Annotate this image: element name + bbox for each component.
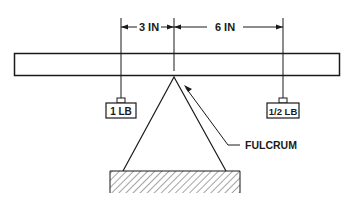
dimension-left-label: 3 IN: [139, 21, 159, 33]
weight-left: 1 LB: [106, 98, 136, 118]
ground-base: [110, 171, 240, 193]
weight-right-label: 1/2 LB: [269, 106, 298, 117]
lever-beam: [15, 54, 340, 76]
dimension-right: 6 IN: [174, 21, 283, 33]
fulcrum-label: FULCRUM: [245, 139, 297, 151]
fulcrum-triangle: [123, 77, 226, 171]
dimension-right-label: 6 IN: [215, 21, 235, 33]
weight-left-label: 1 LB: [110, 106, 132, 117]
dimension-left: 3 IN: [121, 21, 174, 33]
weight-right: 1/2 LB: [267, 98, 299, 118]
lever-diagram: 3 IN 6 IN 1 LB 1/2 LB FULCRUM: [0, 0, 349, 205]
